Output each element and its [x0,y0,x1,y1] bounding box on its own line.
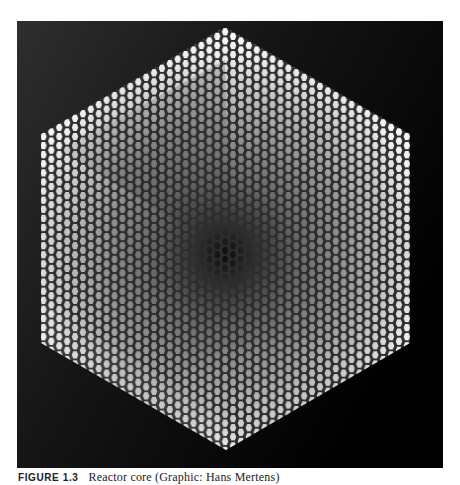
reactor-core-graphic [17,21,443,468]
caption-label: FIGURE 1.3 [18,472,78,483]
figure-caption: FIGURE 1.3Reactor core (Graphic: Hans Me… [18,470,280,485]
figure-image [17,21,443,468]
caption-text: Reactor core (Graphic: Hans Mertens) [88,470,279,484]
